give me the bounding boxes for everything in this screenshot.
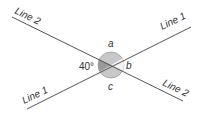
angle-c-label: c (108, 81, 113, 92)
angle-40-label: 40° (79, 61, 94, 72)
intersecting-lines-diagram: Line 2 Line 1 Line 1 Line 2 40° a b c (0, 0, 201, 117)
line-1-label-bottom-left: Line 1 (20, 84, 49, 106)
line-2-label-top-left: Line 2 (13, 5, 43, 27)
angle-a-label: a (108, 38, 114, 49)
angle-b-label: b (126, 60, 132, 71)
line-1-label-top-right: Line 1 (158, 10, 187, 32)
line-2-label-bottom-right: Line 2 (161, 77, 191, 99)
